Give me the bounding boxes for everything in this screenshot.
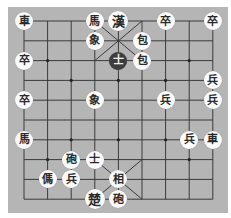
piece-卒-c0r2[interactable]: 卒 <box>15 52 33 70</box>
piece-兵-c8r4[interactable]: 兵 <box>204 91 222 109</box>
piece-馬-c3r0[interactable]: 馬 <box>86 12 104 30</box>
piece-傌-c1r8[interactable]: 傌 <box>39 170 57 188</box>
piece-車-c8r6[interactable]: 車 <box>204 131 222 149</box>
piece-士-c4r2[interactable]: 士 <box>109 52 127 70</box>
piece-兵-c6r4[interactable]: 兵 <box>157 91 175 109</box>
piece-包-c5r1[interactable]: 包 <box>133 32 151 50</box>
piece-卒-c6r0[interactable]: 卒 <box>157 12 175 30</box>
piece-象-c3r1[interactable]: 象 <box>86 32 104 50</box>
piece-卒-c8r0[interactable]: 卒 <box>204 12 222 30</box>
piece-象-c3r4[interactable]: 象 <box>86 91 104 109</box>
piece-兵-c7r6[interactable]: 兵 <box>180 131 198 149</box>
piece-楚-c3r9[interactable]: 楚 <box>85 189 105 209</box>
piece-士-c3r7[interactable]: 士 <box>86 151 104 169</box>
piece-馬-c0r6[interactable]: 馬 <box>15 131 33 149</box>
piece-包-c5r2[interactable]: 包 <box>133 52 151 70</box>
piece-車-c0r0[interactable]: 車 <box>15 12 33 30</box>
piece-砲-c2r7[interactable]: 砲 <box>62 151 80 169</box>
